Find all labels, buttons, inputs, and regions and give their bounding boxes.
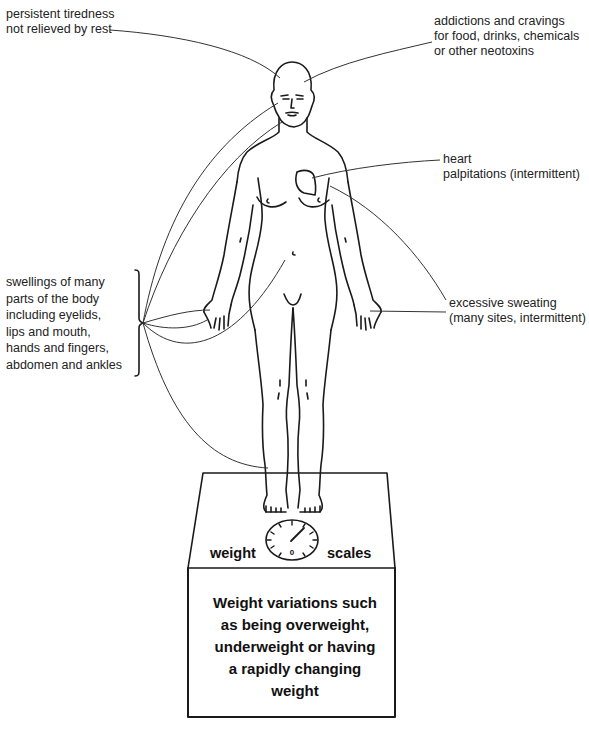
swellings-bracket (135, 270, 143, 376)
dial-zero: 0 (290, 548, 295, 557)
eyebrow-left (281, 95, 288, 96)
label-tiredness: persistent tiredness not relieved by res… (6, 7, 114, 37)
mouth (286, 112, 298, 116)
breast-right (299, 198, 329, 207)
arm-left-outer (204, 182, 237, 312)
torso-right (325, 178, 337, 330)
leader-addictions (304, 42, 432, 82)
leader-swell-abdomen (143, 260, 285, 343)
dial-needle (291, 528, 304, 541)
leg-left-inner (286, 308, 293, 508)
hand-left (204, 305, 231, 330)
label-heart-palpitations: heart palpitations (intermittent) (443, 152, 580, 182)
scales-word-weight: weight (210, 545, 256, 561)
label-addictions: addictions and cravings for food, drinks… (434, 14, 579, 59)
heart-shape (296, 170, 316, 195)
toes-left (266, 506, 281, 512)
nose (291, 99, 294, 108)
eyebrow-right (296, 95, 303, 96)
elbow-right (345, 238, 346, 242)
hand-right (354, 305, 381, 330)
navel (293, 252, 295, 255)
leg-left-outer (255, 330, 286, 512)
head-outline (271, 62, 314, 127)
leg-right-inner (293, 308, 300, 508)
nipple-left (267, 199, 269, 203)
leader-swell-ankle (143, 323, 268, 468)
pelvis (284, 294, 301, 305)
weight-variations-text: Weight variations such as being overweig… (195, 592, 395, 702)
scales-word-scales: scales (327, 545, 371, 561)
label-sweating: excessive sweating (many sites, intermit… (449, 296, 586, 326)
leg-right-outer (300, 330, 331, 512)
knee-left (278, 380, 280, 399)
leader-swell-fingers (143, 320, 207, 328)
leader-tiredness (110, 30, 280, 78)
neck-right (307, 118, 348, 182)
label-swellings: swellings of many parts of the body incl… (6, 274, 122, 373)
elbow-left (240, 238, 241, 242)
nipple-right (318, 198, 320, 202)
arm-right-outer (348, 182, 381, 312)
knee-right (306, 380, 308, 399)
arm-right-inner (332, 205, 354, 305)
leader-swell-hand (143, 310, 210, 323)
toes-right (305, 506, 320, 512)
leader-heart (312, 160, 440, 178)
leader-swell-eyelid (143, 103, 278, 323)
